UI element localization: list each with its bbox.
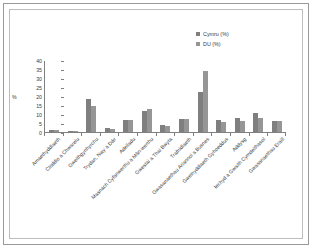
x-axis-label: Gwestai a Thai Bwyta (134, 136, 174, 176)
bar-group (45, 61, 64, 132)
bar-du (203, 71, 208, 132)
bar-du (277, 121, 282, 132)
legend-item-du: DU (%) (196, 41, 276, 47)
bar-du (258, 118, 263, 132)
y-tick-label: 30 (20, 76, 42, 82)
legend-label-cymru: Cymru (%) (203, 31, 229, 37)
bar-group (138, 61, 157, 132)
bar-group (119, 61, 138, 132)
bar-du (184, 119, 189, 132)
bar-group (64, 61, 83, 132)
bar-group (156, 61, 175, 132)
legend-label-du: DU (%) (203, 41, 221, 47)
x-axis-label: Gwasanaethau Eraill (247, 136, 285, 174)
bar-group (230, 61, 249, 132)
y-axis-labels: 4035302520151050 (20, 55, 42, 139)
bar-du (165, 126, 170, 132)
bar-du (128, 120, 133, 132)
bar-group (212, 61, 231, 132)
bar-group (101, 61, 120, 132)
bar-group (193, 61, 212, 132)
y-tick-label: 5 (20, 121, 42, 127)
y-tick-label: 20 (20, 94, 42, 100)
x-axis-label: Addysg (231, 136, 247, 152)
y-tick-label: 0 (20, 130, 42, 136)
y-axis-title: % (12, 94, 17, 100)
y-tick-label: 10 (20, 112, 42, 118)
bar-du (240, 121, 245, 132)
y-tick-label: 25 (20, 85, 42, 91)
bar-du (91, 106, 96, 132)
bar-group (267, 61, 286, 132)
y-tick-label: 15 (20, 103, 42, 109)
y-tick-label: 40 (20, 58, 42, 64)
chart-page: Cymru (%) DU (%) % 4035302520151050 Amae… (0, 0, 312, 248)
legend-swatch-du (196, 42, 200, 46)
plot-area (44, 61, 286, 133)
bar-du (73, 131, 78, 132)
legend-item-cymru: Cymru (%) (196, 31, 276, 37)
x-axis-labels: AmaethyddiaethCloddio a ChwareluGweithgy… (44, 136, 286, 232)
x-axis-label: Trydan, Nwy a Dŵr (82, 136, 117, 171)
bar-group (82, 61, 101, 132)
y-tick-label: 35 (20, 67, 42, 73)
bar-group (175, 61, 194, 132)
bar-du (221, 122, 226, 132)
bar-du (54, 130, 59, 132)
bar-du (110, 129, 115, 132)
bar-group (249, 61, 268, 132)
legend-swatch-cymru (196, 32, 200, 36)
x-axis-label: Cloddio a Chwarelu (44, 136, 80, 172)
bar-groups (45, 61, 286, 132)
bar-du (147, 109, 152, 132)
chart-legend: Cymru (%) DU (%) (196, 31, 276, 51)
